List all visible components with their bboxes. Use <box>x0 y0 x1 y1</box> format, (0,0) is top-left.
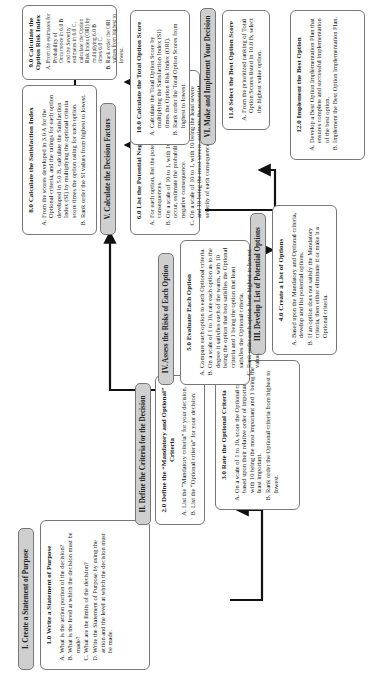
step-title: 4.0 Create a List of Options <box>278 212 286 348</box>
step-item: On a scale of 1 to 10, score the Optiona… <box>233 367 263 493</box>
step-9: 9.0 Calculate the Option Risk Index From… <box>22 5 117 80</box>
step-4: 4.0 Create a List of Options Based upon … <box>272 205 337 355</box>
step-11: 11.0 Select the Best Option Score From t… <box>222 10 270 130</box>
step-item: On a scale of 1 to 10, rate each option … <box>206 247 244 368</box>
step-item: What is the action portion of the decisi… <box>58 527 66 653</box>
step-item: Compare each option to each Optional cri… <box>198 247 206 368</box>
step-title: 1.0 Write a Statement of Purpose <box>46 527 54 663</box>
step-item: Rank order each option from highest to l… <box>245 247 260 368</box>
step-title: 10.0 Calculate the Total Option Score <box>136 17 144 138</box>
step-item: Develop a Best Option Implementation Pla… <box>308 17 331 143</box>
step-10: 10.0 Calculate the Total Option Score Ca… <box>130 10 190 145</box>
step-item: Implement the Best Option Implementation… <box>331 17 339 143</box>
phase-VI: VI. Make and Implement Your Decision <box>200 8 216 145</box>
step-2: 2.0 Define the “Mandatory and Optional” … <box>155 375 205 525</box>
phase-IV: IV. Assess the Risks of Each Option <box>158 253 174 385</box>
phase-II: II. Define the Criteria for the Decision <box>135 383 151 525</box>
step-title: 12.0 Implement the Best Option <box>296 17 304 153</box>
step-title: 8.0 Calculate the Satisfaction Index <box>28 92 36 228</box>
step-item: Rank order the ORI values from highest t… <box>105 12 125 63</box>
step-item: What is the level at which the decision … <box>66 527 81 653</box>
step-item: List the “Optional criteria” for your de… <box>189 382 197 508</box>
step-item: List the “Mandatory criteria” for your d… <box>180 382 188 508</box>
step-item: Calculate the Total Option Score by mult… <box>148 17 171 128</box>
phase-I: I. Create a Statement of Purpose <box>18 528 34 670</box>
step-title: 9.0 Calculate the Option Risk Index <box>28 12 41 73</box>
step-item: If an option does not satisfy the Mandat… <box>306 212 329 338</box>
step-title: 5.0 Evaluate Each Option <box>186 247 194 378</box>
step-item: From the estimates for Probability of Oc… <box>45 12 104 63</box>
step-item: From the prioritized ranking of Total Op… <box>240 17 263 113</box>
step-title: 11.0 Select the Best Option Score <box>228 17 236 123</box>
step-item: Rank order the Total Option Scores from … <box>171 17 186 128</box>
step-5: 5.0 Evaluate Each Option Compare each op… <box>180 240 250 385</box>
step-title: 2.0 Define the “Mandatory and Optional” … <box>161 382 176 518</box>
step-item: Write the Statement of Purpose by using … <box>91 527 114 653</box>
phase-V: V. Calculate the Decision Factors <box>100 103 116 235</box>
step-title: 3.0 Rate the Optional Criteria <box>221 367 229 503</box>
step-1: 1.0 Write a Statement of Purpose What is… <box>40 520 150 670</box>
step-item: Rank order the SI values from highest to… <box>79 92 87 218</box>
step-item: Rank order the Optional criteria from hi… <box>264 367 279 493</box>
step-12: 12.0 Implement the Best Option Develop a… <box>290 10 365 160</box>
step-item: What are the limits of the decision? <box>82 527 90 653</box>
flowchart: I. Create a Statement of Purpose 1.0 Wri… <box>0 0 390 690</box>
step-8: 8.0 Calculate the Satisfaction Index Fro… <box>22 85 97 235</box>
step-item: From the scores developed in 3.0 A for t… <box>40 92 78 218</box>
step-item: Based upon the Mandatory and Optional cr… <box>290 212 305 338</box>
